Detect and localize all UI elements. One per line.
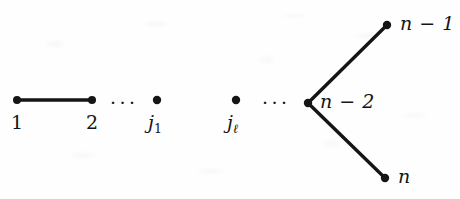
vertex-label-vn1: n − 1: [400, 14, 454, 33]
graph-edge-vn2-vn: [308, 103, 385, 178]
vertex-label-v1: 1: [11, 113, 23, 132]
graph-vertex-vjl: [232, 96, 240, 104]
vertex-label-vn2: n − 2: [320, 92, 374, 111]
ellipsis-dots-left: ···: [110, 93, 139, 112]
vertex-label-v2: 2: [86, 113, 98, 132]
graph-vertex-vn2: [304, 99, 312, 107]
graph-vertex-vj1: [153, 96, 161, 104]
vertex-label-vn: n: [398, 167, 410, 186]
graph-vertex-vn1: [383, 21, 391, 29]
vertex-label-vjl: jℓ: [227, 113, 238, 135]
graph-canvas: [0, 0, 460, 199]
graph-vertex-v1: [13, 96, 21, 104]
graph-vertex-v2: [88, 96, 96, 104]
graph-vertex-vn: [381, 174, 389, 182]
vertex-label-vj1: j1: [148, 113, 162, 135]
graph-figure: 12j1jℓn − 2n − 1n······: [0, 0, 460, 199]
ellipsis-dots-right: ···: [262, 93, 291, 112]
